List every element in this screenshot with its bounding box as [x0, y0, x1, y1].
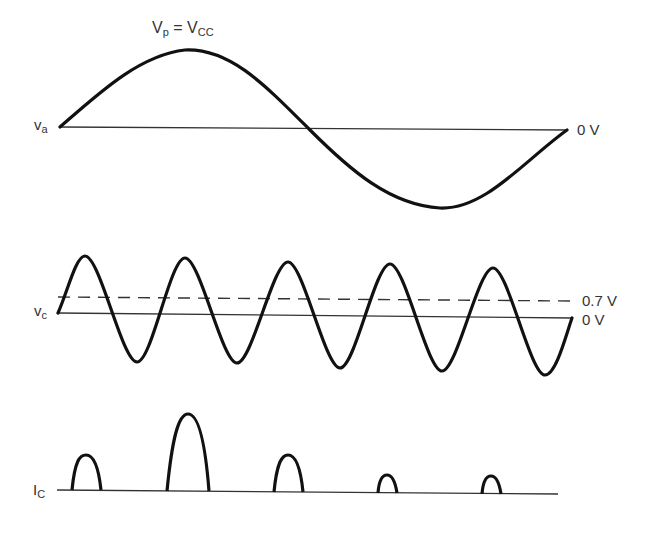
ic-label: IC [33, 482, 45, 500]
va-plot [60, 50, 567, 208]
ic-pulse-2 [167, 414, 209, 491]
va-label: va [34, 117, 48, 135]
ic-pulse-5 [482, 476, 501, 494]
va-zero-label: 0 V [577, 122, 600, 137]
va-zero-axis [60, 127, 567, 130]
waveform-diagram [0, 0, 662, 558]
vc-zero-label: 0 V [582, 312, 605, 327]
vc-threshold-dashed-line [58, 297, 572, 301]
ic-pulse-1 [72, 455, 101, 490]
vc-label: vc [34, 303, 47, 321]
ic-pulse-4 [378, 475, 397, 493]
ic-pulse-3 [274, 455, 303, 492]
ic-plot [57, 414, 558, 494]
peak-label: Vp = VCC [152, 20, 214, 38]
vc-plot [58, 256, 572, 375]
vc-sine-wave [58, 256, 572, 375]
vc-threshold-label: 0.7 V [582, 293, 617, 308]
